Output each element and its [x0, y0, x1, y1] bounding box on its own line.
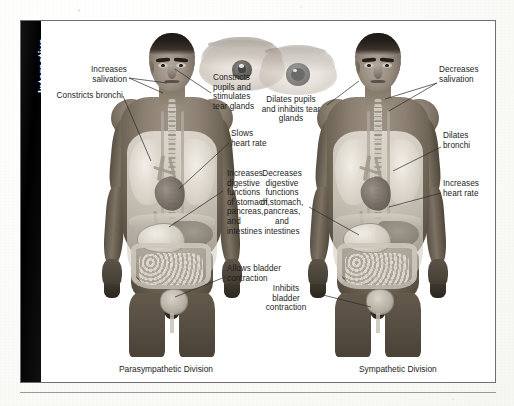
hair — [149, 33, 195, 55]
hand-left — [102, 259, 122, 289]
paper-speck — [300, 6, 302, 8]
caption-sympathetic-division: Sympathetic Division — [359, 364, 437, 374]
paper-speck — [452, 398, 454, 400]
mouth — [371, 80, 386, 83]
label-increases-salivation: Increases salivation — [47, 65, 127, 84]
nose — [168, 65, 177, 79]
bladder — [366, 289, 394, 315]
label-increases-heart-rate: Increases heart rate — [443, 179, 495, 198]
ear-right — [396, 61, 401, 75]
label-dilates-pupils: Dilates pupils and inhibits tear glands — [249, 95, 333, 124]
mouth — [165, 80, 180, 83]
brow-right — [174, 57, 188, 62]
brow-right — [380, 57, 394, 62]
label-decreases-salivation: Decreases salivation — [439, 65, 495, 84]
head — [355, 33, 401, 91]
label-allows-bladder: Allows bladder contraction — [227, 264, 299, 283]
label-inhibits-bladder: Inhibits bladder contraction — [257, 284, 315, 313]
brow-left — [156, 57, 170, 62]
urethra — [376, 313, 380, 333]
ear-left — [355, 61, 360, 75]
bladder — [160, 289, 188, 315]
urethra — [170, 313, 174, 333]
caption-parasympathetic-division: Parasympathetic Division — [119, 364, 213, 374]
eye-right — [176, 63, 186, 68]
eye-right — [382, 63, 392, 68]
small-intestine — [139, 253, 203, 285]
figure-frame: Interactive — [20, 20, 496, 383]
label-decreases-digestive: Decreases digestive functions of stomach… — [253, 169, 311, 236]
brow-left — [362, 57, 376, 62]
hand-right — [428, 259, 448, 289]
eye-left — [158, 63, 168, 68]
eye-glint — [293, 69, 297, 72]
head — [149, 33, 195, 91]
small-intestine — [345, 253, 409, 285]
eye-left — [364, 63, 374, 68]
lung-right — [386, 139, 421, 205]
bottom-divider-rule — [20, 392, 496, 393]
lung-right — [180, 139, 215, 205]
label-constricts-bronchi: Constricts bronchi — [41, 91, 123, 101]
nose — [374, 65, 383, 79]
paper-speck — [78, 9, 80, 12]
label-dilates-bronchi: Dilates bronchi — [443, 131, 495, 150]
interactive-tab[interactable]: Interactive — [21, 21, 41, 382]
ear-right — [190, 61, 195, 75]
label-slows-heart-rate: Slows heart rate — [231, 129, 287, 148]
illustration-stage: Increases salivation Constricts bronchi … — [41, 21, 495, 382]
hair — [355, 33, 401, 55]
ear-left — [149, 61, 154, 75]
sympathetic-body-figure — [303, 27, 453, 357]
